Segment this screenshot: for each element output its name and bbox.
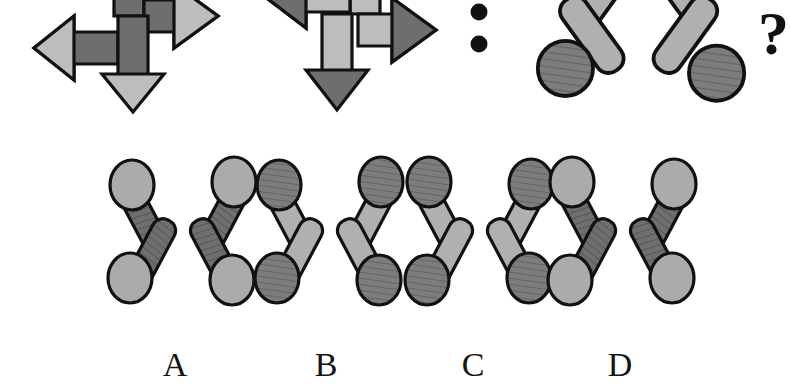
option-a-svg[interactable] [108,160,258,300]
option-label-d[interactable]: D [590,348,650,382]
circle-top-right [212,157,256,207]
circle-top-left [110,160,154,210]
circle-top-right [359,157,403,207]
option-figure-d[interactable] [548,160,698,300]
circle-bottom-left [548,255,592,305]
circle-bottom-right [689,46,744,101]
arrow-up-shaft [350,0,380,14]
arrow-up-shaft [114,0,144,16]
option-figure-b[interactable] [255,160,405,300]
question-mark: ? [758,4,790,74]
circle-top-left [257,160,301,210]
arrow-figure-1 [22,0,232,114]
colon-dot-upper [471,4,488,21]
arrow-down-head [306,70,368,110]
colon-separator [466,2,496,62]
arrow-figure-1-svg [22,0,232,114]
arrow-right-head [392,0,436,62]
circle-bottom-right [210,255,254,305]
option-label-b[interactable]: B [296,348,356,382]
option-b-svg[interactable] [255,160,405,300]
circle-bottom-left [538,41,593,96]
x-figure-question [536,0,746,114]
circle-bottom-right [357,255,401,305]
arrow-figure-2 [252,0,462,114]
circle-bottom-left [405,255,449,305]
circle-top-left [407,157,451,207]
option-c-svg[interactable] [405,160,555,300]
circle-top-right [509,159,553,209]
option-figure-a[interactable] [108,160,258,300]
arrow-figure-2-svg [252,0,462,114]
question-mark-glyph: ? [758,0,789,67]
circle-bottom-right [650,253,694,303]
option-figure-c[interactable] [405,160,555,300]
colon-dot-lower [471,36,488,53]
circle-bottom-left [108,253,152,303]
option-label-a[interactable]: A [145,348,205,382]
question-mark-svg: ? [758,4,790,74]
circle-top-left [550,157,594,207]
arrow-left-head [264,0,306,28]
colon-svg [466,2,496,62]
x-figure-question-svg [536,0,746,114]
arrow-down-shaft [118,16,148,76]
arrow-left-head [34,16,74,80]
circle-bottom-left [255,253,299,303]
option-label-c[interactable]: C [443,348,503,382]
arrow-right-head [174,0,218,48]
arrow-down-head [102,74,164,112]
arrow-down-shaft [322,14,352,72]
option-d-svg[interactable] [548,160,698,300]
circle-bottom-right [507,253,551,303]
circle-top-right [652,159,696,209]
